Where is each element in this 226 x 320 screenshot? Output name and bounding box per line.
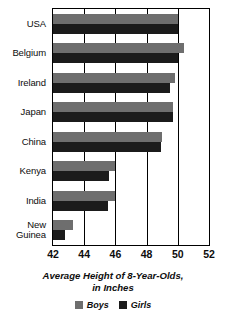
bar-belgium-girls [53,53,178,63]
bar-group [53,127,209,157]
bar-usa-girls [53,24,178,34]
bar-belgium-boys [53,43,184,53]
category-label-japan: Japan [0,107,46,118]
category-label-belgium: Belgium [0,48,46,59]
category-axis-labels: USABelgiumIrelandJapanChinaKenyaIndiaNew… [0,8,50,246]
legend-swatch-girls [119,301,127,309]
bar-group [53,186,209,216]
bar-new-guinea-girls [53,230,65,240]
category-label-ireland: Ireland [0,78,46,89]
category-label-usa: USA [0,19,46,30]
bar-chart-figure: USABelgiumIrelandJapanChinaKenyaIndiaNew… [0,0,226,320]
x-tick-44: 44 [72,248,96,260]
bar-japan-boys [53,102,173,112]
legend-item-boys: Boys [75,300,109,310]
category-label-kenya: Kenya [0,166,46,177]
category-label-india: India [0,196,46,207]
x-tick-50: 50 [166,248,190,260]
bar-india-girls [53,201,108,211]
bar-japan-girls [53,112,173,122]
legend-item-girls: Girls [119,300,152,310]
bar-group [53,98,209,128]
legend-label-boys: Boys [87,300,109,310]
legend-label-girls: Girls [131,300,152,310]
bar-group [53,9,209,39]
x-axis-tick-labels: 424446485052 [52,248,210,264]
category-label-china: China [0,137,46,148]
category-label-new-guinea: NewGuinea [0,220,46,241]
bar-new-guinea-boys [53,220,73,230]
bar-india-boys [53,191,115,201]
plot-area [52,8,210,246]
bar-ireland-girls [53,83,170,93]
bar-group [53,157,209,187]
bar-kenya-girls [53,171,109,181]
x-tick-52: 52 [197,248,221,260]
legend-swatch-boys [75,301,83,309]
bar-china-boys [53,132,162,142]
bar-group [53,216,209,246]
x-tick-42: 42 [41,248,65,260]
chart-legend: BoysGirls [0,300,226,310]
x-axis-title-line-2: in Inches [10,282,216,294]
x-axis-title-line-1: Average Height of 8-Year-Olds, [10,270,216,282]
bar-kenya-boys [53,161,115,171]
x-tick-48: 48 [135,248,159,260]
x-axis-title: Average Height of 8-Year-Olds, in Inches [10,270,216,293]
bar-china-girls [53,142,161,152]
bar-ireland-boys [53,73,175,83]
bar-group [53,39,209,69]
bar-usa-boys [53,14,178,24]
x-tick-46: 46 [103,248,127,260]
bar-group [53,68,209,98]
